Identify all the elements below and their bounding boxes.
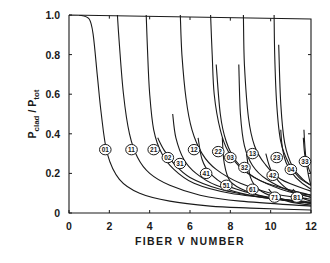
mode-label-text: 23 — [273, 154, 281, 161]
y-tick-label: 1.0 — [45, 9, 60, 21]
mode-label-61: 61 — [247, 184, 259, 194]
y-tick-label: 0 — [54, 207, 60, 219]
mode-curve-01 — [79, 15, 311, 210]
mode-label-text: 33 — [301, 158, 309, 165]
mode-label-text: 02 — [164, 154, 172, 161]
mode-label-text: 51 — [223, 182, 231, 189]
mode-label-23: 23 — [271, 152, 283, 162]
mode-label-text: 12 — [190, 146, 198, 153]
mode-label-text: 22 — [215, 148, 223, 155]
mode-labels: 01112102311241220351321361422371043381 — [100, 144, 311, 202]
y-axis-title-num-sub: clad — [32, 115, 41, 131]
mode-label-text: 13 — [249, 150, 257, 157]
x-tick-label: 2 — [106, 220, 112, 232]
y-axis-title: Pclad / Ptot — [26, 89, 41, 138]
mode-label-31: 31 — [174, 158, 186, 168]
mode-label-text: 32 — [241, 164, 249, 171]
mode-label-12: 12 — [188, 144, 200, 154]
mode-label-71: 71 — [269, 192, 281, 202]
mode-label-text: 03 — [227, 154, 235, 161]
mode-label-42: 42 — [267, 170, 279, 180]
mode-label-text: 41 — [203, 170, 211, 177]
mode-label-text: 61 — [249, 186, 257, 193]
mode-label-01: 01 — [100, 144, 112, 154]
mode-label-22: 22 — [212, 146, 224, 156]
mode-label-13: 13 — [247, 148, 259, 158]
x-tick-label: 4 — [147, 220, 153, 232]
y-axis-title-den-sub: tot — [32, 89, 41, 100]
x-tick-label: 0 — [66, 220, 72, 232]
mode-label-32: 32 — [239, 162, 251, 172]
chart: 02468101200.20.40.60.81.0 01112102311241… — [0, 0, 330, 263]
mode-label-text: 31 — [176, 160, 184, 167]
mode-label-04: 04 — [285, 164, 297, 174]
mode-label-text: 01 — [102, 146, 110, 153]
mode-label-41: 41 — [200, 168, 212, 178]
mode-label-text: 81 — [293, 194, 301, 201]
mode-label-33: 33 — [299, 156, 311, 166]
x-tick-label: 12 — [305, 220, 317, 232]
mode-label-21: 21 — [148, 144, 160, 154]
y-tick-label: 0.2 — [45, 167, 60, 179]
mode-curves — [79, 15, 311, 210]
mode-label-text: 42 — [269, 172, 277, 179]
mode-label-text: 04 — [287, 166, 295, 173]
y-axis-title-p2: P — [26, 100, 38, 107]
y-axis-title-p: P — [26, 132, 38, 139]
mode-label-81: 81 — [291, 192, 303, 202]
mode-label-51: 51 — [221, 180, 233, 190]
y-tick-label: 0.6 — [45, 88, 60, 100]
mode-label-02: 02 — [162, 152, 174, 162]
mode-label-text: 11 — [128, 146, 135, 153]
x-tick-label: 8 — [227, 220, 233, 232]
mode-curve-21 — [146, 15, 311, 203]
mode-label-11: 11 — [126, 144, 138, 154]
mode-label-03: 03 — [225, 152, 237, 162]
y-tick-label: 0.8 — [45, 49, 60, 61]
svg-text:Pclad / Ptot: Pclad / Ptot — [26, 89, 41, 138]
x-tick-label: 10 — [265, 220, 277, 232]
x-axis-title: FIBER V NUMBER — [135, 235, 245, 247]
mode-label-text: 21 — [150, 146, 158, 153]
mode-label-text: 71 — [271, 194, 279, 201]
x-tick-label: 6 — [187, 220, 193, 232]
y-tick-label: 0.4 — [45, 128, 60, 140]
